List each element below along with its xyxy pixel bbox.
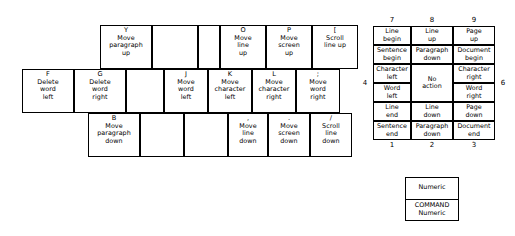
key-desc-line: up — [239, 50, 247, 58]
numpad-desc-line: left — [387, 74, 397, 81]
key-desc-line: left — [43, 94, 54, 102]
numpad-desc-line: action — [422, 83, 442, 90]
numpad-desc-line: down — [423, 112, 440, 119]
key-blank-bottom-1[interactable] — [140, 113, 184, 157]
numpad-key-6-upper[interactable]: Character right — [453, 64, 495, 83]
numpad-key-8-upper[interactable]: Line up — [411, 26, 453, 45]
numpad-desc-line: left — [387, 93, 397, 100]
key-desc-line: left — [225, 94, 236, 102]
legend-row-numeric: Numeric — [406, 178, 458, 199]
numpad-desc-line: right — [466, 93, 481, 100]
numpad-key-7-upper[interactable]: Line begin — [373, 26, 411, 45]
legend-line: Numeric — [419, 184, 446, 192]
key-j[interactable]: J Move word left — [164, 69, 208, 113]
key-desc-line: down — [105, 138, 122, 146]
numpad-desc-line: end — [386, 112, 398, 119]
numpad-key-7-lower[interactable]: Sentence begin — [373, 45, 411, 64]
numpad-key-5[interactable]: No action — [411, 64, 453, 102]
numpad-desc-line: up — [428, 36, 436, 43]
numpad-desc-line: down — [465, 112, 482, 119]
legend-row-command-numeric: COMMAND Numeric — [406, 199, 458, 221]
key-desc-line: down — [322, 138, 339, 146]
numpad-number-1: 1 — [373, 141, 411, 149]
key-o[interactable]: O Move line up — [220, 25, 266, 69]
numpad-key-2-upper[interactable]: Line down — [411, 102, 453, 121]
numpad-desc-line: begin — [383, 55, 401, 62]
key-desc-line: up — [285, 50, 293, 58]
key-y[interactable]: Y Move paragraph up — [100, 25, 152, 69]
numpad-number-3: 3 — [453, 141, 495, 149]
numpad-desc-line: begin — [465, 55, 483, 62]
numpad-key-9-lower[interactable]: Document begin — [453, 45, 495, 64]
key-f[interactable]: F Delete word left — [22, 69, 74, 113]
numpad-key-4-lower[interactable]: Word left — [373, 83, 411, 102]
numpad-desc-line: begin — [383, 36, 401, 43]
keyboard-command-diagram: Y Move paragraph up O Move line up P Mov… — [0, 0, 515, 236]
key-desc-line: right — [266, 94, 281, 102]
numpad-key-1-lower[interactable]: Sentence end — [373, 121, 411, 140]
numpad-key-3-upper[interactable]: Page down — [453, 102, 495, 121]
key-slash[interactable]: / Scroll line down — [310, 113, 352, 157]
key-desc-line: right — [310, 94, 325, 102]
key-b[interactable]: B Move paragraph down — [88, 113, 140, 157]
numpad-number-9: 9 — [453, 16, 495, 24]
key-desc-line: left — [181, 94, 192, 102]
key-desc-line: up — [122, 50, 130, 58]
numpad-key-4-upper[interactable]: Character left — [373, 64, 411, 83]
numpad-number-8: 8 — [411, 16, 453, 24]
numpad-key-2-lower[interactable]: Paragraph down — [411, 121, 453, 140]
numpad-desc-line: end — [468, 131, 480, 138]
numpad-key-1-upper[interactable]: Line end — [373, 102, 411, 121]
numpad-key-3-lower[interactable]: Document end — [453, 121, 495, 140]
key-blank-home-1[interactable] — [126, 69, 164, 113]
key-desc-line: line up — [324, 42, 346, 50]
numpad-key-9-upper[interactable]: Page up — [453, 26, 495, 45]
key-desc-line: right — [92, 94, 107, 102]
key-l[interactable]: L Move character right — [252, 69, 296, 113]
key-g[interactable]: G Delete word right — [74, 69, 126, 113]
numpad-desc-line: right — [466, 74, 481, 81]
numpad-desc-line: end — [386, 131, 398, 138]
key-desc-line: down — [280, 138, 297, 146]
numpad-desc-line: down — [423, 131, 440, 138]
numpad-number-4: 4 — [359, 79, 371, 87]
numpad-number-2: 2 — [411, 141, 453, 149]
numpad-number-7: 7 — [373, 16, 411, 24]
numpad-key-8-lower[interactable]: Paragraph down — [411, 45, 453, 64]
numpad-number-6: 6 — [497, 79, 509, 87]
numpad-desc-line: up — [470, 36, 478, 43]
numpad-key-6-lower[interactable]: Word right — [453, 83, 495, 102]
key-blank-top-1[interactable] — [152, 25, 198, 69]
legend-line: Numeric — [419, 210, 446, 218]
key-blank-top-2[interactable] — [198, 25, 220, 69]
key-desc-line: down — [239, 138, 256, 146]
key-period[interactable]: . Move screen down — [268, 113, 310, 157]
key-blank-bottom-2[interactable] — [184, 113, 228, 157]
key-comma[interactable]: , Move line down — [228, 113, 268, 157]
key-p[interactable]: P Move screen up — [266, 25, 312, 69]
key-k[interactable]: K Move character left — [208, 69, 252, 113]
legend-box: Numeric COMMAND Numeric — [405, 177, 459, 221]
key-semicolon[interactable]: ; Move word right — [296, 69, 340, 113]
numpad-desc-line: down — [423, 55, 440, 62]
key-bracket-left[interactable]: [ Scroll line up — [312, 25, 358, 69]
